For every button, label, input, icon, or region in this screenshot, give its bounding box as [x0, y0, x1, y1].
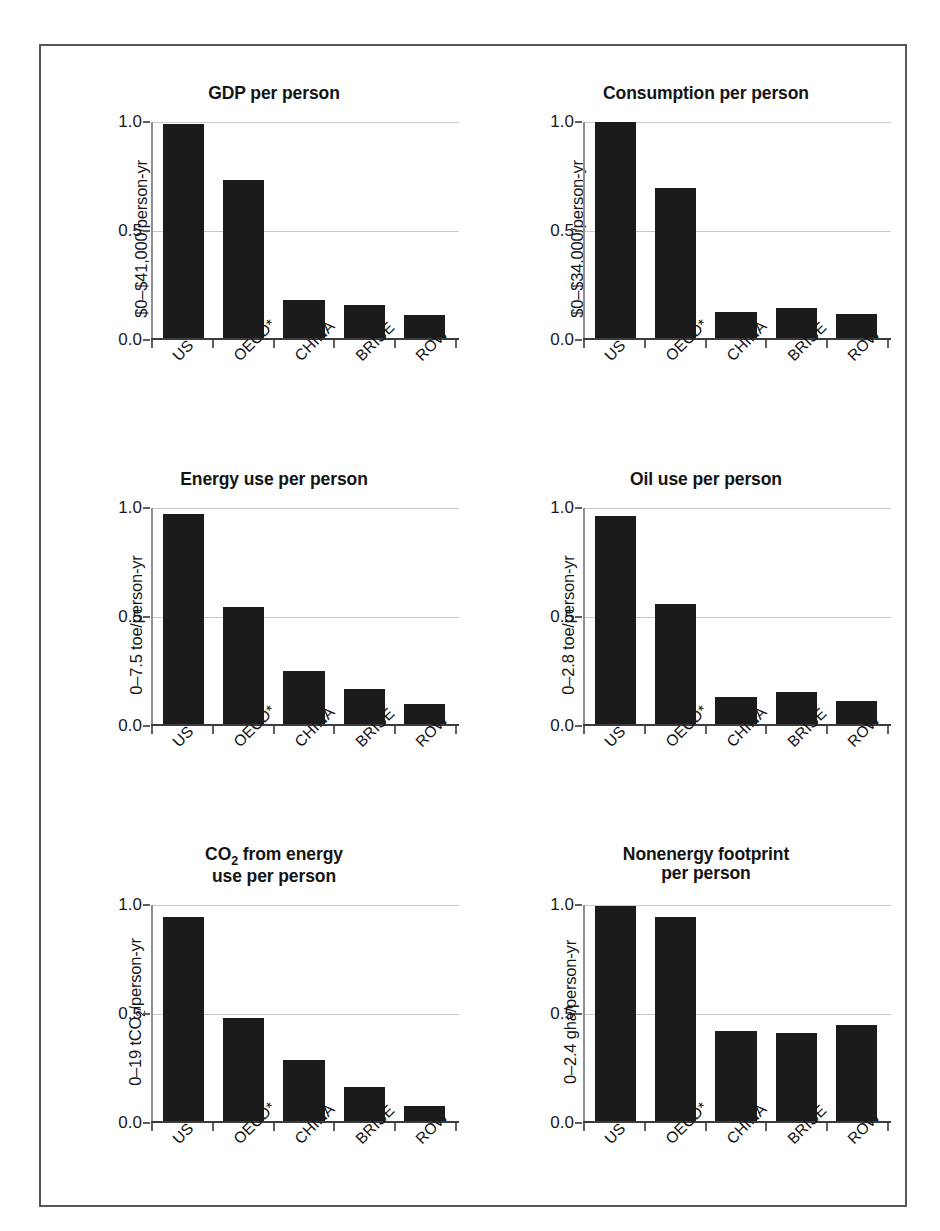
y-tick-mark — [575, 121, 582, 123]
y-tick-mark — [143, 904, 150, 906]
x-tick-mark — [765, 1123, 767, 1131]
y-tick-label: 0.0 — [118, 1112, 142, 1132]
panel-energy-use-per-person: Energy use per person0–7.5 toe/person-yr… — [41, 432, 473, 818]
x-tick-mark — [887, 340, 889, 348]
y-tick-mark — [575, 507, 582, 509]
y-tick-label: 0.0 — [118, 330, 142, 350]
x-tick-mark — [151, 1123, 153, 1131]
y-tick-mark — [575, 725, 582, 727]
y-tick-label: 0.5 — [118, 1003, 142, 1023]
plot-area: 0.00.51.0USOECD*CHINABRISEROW — [151, 122, 455, 340]
panel-title: CO2 from energyuse per person — [41, 845, 473, 887]
y-tick-label: 1.0 — [118, 112, 142, 132]
x-tick-label-us: US — [169, 723, 197, 751]
bar-china — [715, 1031, 756, 1121]
x-tick-mark — [212, 726, 214, 734]
bar-series — [585, 905, 887, 1121]
bar-brise — [776, 692, 817, 724]
y-tick-label: 1.0 — [550, 112, 574, 132]
x-tick-mark — [455, 1123, 457, 1131]
x-tick-mark — [273, 340, 275, 348]
x-tick-mark — [394, 340, 396, 348]
bar-row — [836, 314, 877, 338]
x-tick-mark — [583, 726, 585, 734]
panel-co2-from-energy-use-per-person: CO2 from energyuse per person0–19 tCO2/p… — [41, 819, 473, 1205]
panel-title: Oil use per person — [473, 470, 905, 490]
bar-series — [153, 508, 455, 724]
panel-gdp-per-person: GDP per person$0–$41,000/person-yr0.00.5… — [41, 46, 473, 432]
panel-title: GDP per person — [41, 84, 473, 104]
bar-row — [404, 315, 445, 338]
plot-area: 0.00.51.0USOECD*CHINABRISEROW — [583, 122, 887, 340]
bar-oecd — [655, 917, 696, 1121]
x-tick-label-us: US — [169, 1119, 197, 1147]
bar-us — [595, 122, 636, 338]
x-tick-mark — [333, 340, 335, 348]
bar-row — [836, 701, 877, 725]
bar-us — [163, 514, 204, 725]
bar-china — [283, 300, 324, 338]
panel-oil-use-per-person: Oil use per person0–2.8 toe/person-yr0.0… — [473, 432, 905, 818]
y-tick-mark — [575, 1122, 582, 1124]
bar-series — [585, 122, 887, 338]
panel-title-line-2: use per person — [93, 867, 455, 887]
x-tick-label-us: US — [601, 723, 629, 751]
x-tick-mark — [151, 726, 153, 734]
y-tick-mark — [143, 616, 150, 618]
x-tick-mark — [455, 726, 457, 734]
bar-row — [404, 704, 445, 725]
x-tick-label-us: US — [169, 336, 197, 364]
x-tick-mark — [151, 340, 153, 348]
x-tick-mark — [826, 726, 828, 734]
panel-title-line-1: Nonenergy footprint — [525, 845, 887, 865]
plot-inner: 0.00.51.0USOECD*CHINABRISEROW — [583, 122, 887, 340]
x-tick-mark — [705, 340, 707, 348]
bar-china — [283, 1060, 324, 1120]
x-tick-mark — [333, 1123, 335, 1131]
x-tick-mark — [644, 726, 646, 734]
y-tick-mark — [575, 230, 582, 232]
figure-frame: GDP per person$0–$41,000/person-yr0.00.5… — [39, 44, 907, 1207]
plot-area: 0.00.51.0USOECD*CHINABRISEROW — [151, 508, 455, 726]
plot-area: 0.00.51.0USOECD*CHINABRISEROW — [583, 508, 887, 726]
bar-oecd — [655, 604, 696, 724]
bar-us — [163, 917, 204, 1121]
bar-oecd — [223, 607, 264, 725]
panel-grid: GDP per person$0–$41,000/person-yr0.00.5… — [41, 46, 905, 1205]
y-tick-mark — [575, 339, 582, 341]
x-tick-mark — [583, 1123, 585, 1131]
x-tick-mark — [333, 726, 335, 734]
bar-us — [595, 516, 636, 724]
bar-series — [585, 508, 887, 724]
bar-brise — [344, 305, 385, 338]
x-tick-mark — [394, 1123, 396, 1131]
bar-us — [595, 906, 636, 1121]
y-tick-label: 1.0 — [550, 894, 574, 914]
y-tick-mark — [143, 507, 150, 509]
plot-inner: 0.00.51.0USOECD*CHINABRISEROW — [151, 122, 455, 340]
bar-china — [283, 671, 324, 724]
x-tick-mark — [826, 1123, 828, 1131]
y-tick-mark — [143, 230, 150, 232]
y-tick-mark — [143, 121, 150, 123]
x-tick-mark — [705, 1123, 707, 1131]
y-tick-label: 0.5 — [550, 607, 574, 627]
x-tick-label-us: US — [601, 1119, 629, 1147]
x-tick-label-us: US — [601, 336, 629, 364]
y-tick-mark — [575, 616, 582, 618]
x-tick-mark — [765, 726, 767, 734]
bar-china — [715, 697, 756, 724]
bar-brise — [776, 1033, 817, 1120]
bar-brise — [776, 308, 817, 338]
x-tick-mark — [826, 340, 828, 348]
x-tick-mark — [765, 340, 767, 348]
y-tick-label: 0.0 — [550, 330, 574, 350]
x-tick-mark — [644, 1123, 646, 1131]
y-tick-label: 0.5 — [118, 607, 142, 627]
panel-nonenergy-footprint-per-person: Nonenergy footprintper person0–2.4 gha/p… — [473, 819, 905, 1205]
y-tick-mark — [143, 339, 150, 341]
y-tick-label: 0.5 — [550, 221, 574, 241]
panel-consumption-per-person: Consumption per person$0–$34,000/person-… — [473, 46, 905, 432]
panel-title: Consumption per person — [473, 84, 905, 104]
y-tick-label: 0.0 — [550, 716, 574, 736]
